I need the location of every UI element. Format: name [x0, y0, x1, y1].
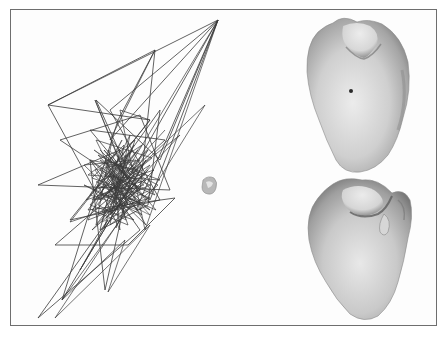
scribble-spikes [55, 20, 218, 318]
figure-canvas [0, 0, 446, 338]
surface-render-bottom [308, 179, 412, 320]
surface-render-top [307, 18, 409, 172]
scribble-panel [38, 20, 218, 318]
marker-dot [349, 89, 353, 93]
inset-thumbnail [202, 177, 217, 194]
